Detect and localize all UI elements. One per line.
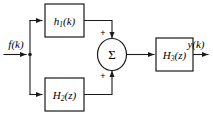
- summer-plus-sign-bottom: +: [100, 71, 105, 81]
- input-label: f(k): [8, 38, 24, 51]
- sigma-symbol: Σ: [108, 47, 116, 62]
- input-arg: (k): [11, 38, 24, 51]
- diagram-canvas: h1(k) H2(z) H3(z) Σ + + f(k) y(k): [0, 0, 213, 121]
- block-diagram: h1(k) H2(z) H3(z) Σ + + f(k) y(k): [0, 0, 213, 121]
- output-label: y(k): [186, 38, 204, 51]
- summer-plus-sign-top: +: [100, 28, 105, 38]
- output-arg: (k): [192, 38, 205, 51]
- h2-arg: (z): [65, 89, 77, 102]
- split-node-dot: [28, 53, 32, 57]
- h2-to-summer-wire: [84, 71, 112, 95]
- h1-arg: (k): [63, 15, 76, 28]
- h3-arg: (z): [175, 49, 187, 62]
- h1-to-summer-wire: [84, 21, 112, 39]
